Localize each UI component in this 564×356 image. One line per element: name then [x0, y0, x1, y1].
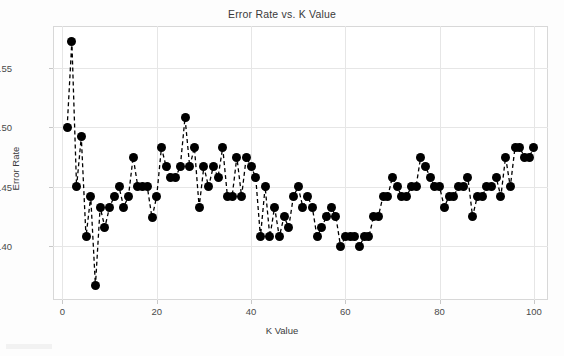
y-axis-title: Error Rate — [10, 124, 21, 214]
page-footer-mark — [6, 344, 52, 349]
figure-canvas: Error Rate vs. K Value 0204060801000.400… — [0, 0, 564, 356]
series-polyline — [67, 41, 534, 285]
x-axis-title: K Value — [0, 325, 564, 336]
data-series-line — [0, 0, 564, 356]
